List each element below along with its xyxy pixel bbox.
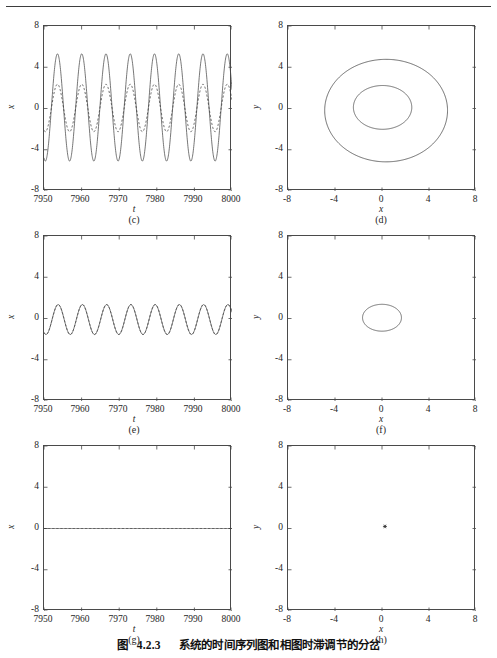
panel-e-curves	[44, 236, 232, 401]
panel-f-ytick-2: 0	[266, 312, 283, 322]
panel-d-xtick-3: 4	[413, 194, 443, 204]
panel-f-xtick-0: -8	[272, 404, 302, 414]
panel-c-caption: (c)	[117, 214, 151, 225]
panel-g-xlabel: t	[127, 624, 141, 634]
panel-d-xtick-0: -8	[272, 194, 302, 204]
panel-f-ytick-0: 8	[266, 230, 283, 240]
panel-g-ytick-0: 8	[22, 440, 39, 450]
figure-caption-text: 系统的时间序列图和相图时滞调节的分岔	[179, 638, 381, 652]
panel-g-plot-frame	[43, 445, 231, 610]
panel-c-ylabel: x	[6, 100, 16, 114]
panel-g-ytick-4: -8	[18, 604, 39, 614]
panel-g-xtick-4: 7990	[173, 614, 213, 624]
panel-d-ytick-0: 8	[266, 20, 283, 30]
panel-g-xtick-0: 7950	[23, 614, 63, 624]
panel-e-ytick-0: 8	[22, 230, 39, 240]
panel-e-xtick-1: 7960	[60, 404, 100, 414]
panel-c-xtick-4: 7990	[173, 194, 213, 204]
panel-h-xtick-4: 8	[460, 614, 490, 624]
panel-c-ytick-2: 0	[22, 102, 39, 112]
panel-c-xtick-1: 7960	[60, 194, 100, 204]
panel-h-ytick-1: 4	[266, 481, 283, 491]
panel-g-xtick-1: 7960	[60, 614, 100, 624]
panel-g-ytick-1: 4	[22, 481, 39, 491]
panel-h-ytick-4: -8	[262, 604, 283, 614]
panel-g-xtick-2: 7970	[98, 614, 138, 624]
panel-h-ylabel: y	[251, 520, 261, 534]
panel-e-ytick-3: -4	[18, 353, 39, 363]
panel-e-ytick-2: 0	[22, 312, 39, 322]
panel-d-curves	[288, 26, 476, 191]
panel-h-plot-frame	[287, 445, 475, 610]
panel-e-ylabel: x	[6, 310, 16, 324]
panel-f: 8 4 0 -4 -8 y -8 -4 0 4 8 x (f)	[249, 228, 497, 428]
panel-e-xtick-5: 8000	[211, 404, 251, 414]
panel-f-ytick-3: -4	[262, 353, 283, 363]
panel-d-ylabel: y	[251, 100, 261, 114]
figure-caption: 图4.2.3系统的时间序列图和相图时滞调节的分岔	[0, 636, 497, 652]
panel-h-xtick-1: -4	[319, 614, 349, 624]
panel-e-xtick-2: 7970	[98, 404, 138, 414]
panel-e-xtick-0: 7950	[23, 404, 63, 414]
panel-d-xtick-4: 8	[460, 194, 490, 204]
panel-f-ytick-1: 4	[266, 271, 283, 281]
figure-caption-number: 4.2.3	[137, 639, 161, 651]
panel-e: 8 4 0 -4 -8 x 7950 7960 7970 7980 7990 8…	[0, 228, 248, 428]
panel-g-ytick-2: 0	[22, 522, 39, 532]
panel-d-ytick-1: 4	[266, 61, 283, 71]
panel-h-xtick-2: 0	[366, 614, 396, 624]
panel-e-xtick-3: 7980	[135, 404, 175, 414]
panel-g: 8 4 0 -4 -8 x 7950 7960 7970 7980 7990 8…	[0, 438, 248, 638]
panel-c-curves	[44, 26, 232, 191]
panel-c-xtick-5: 8000	[211, 194, 251, 204]
panel-f-xtick-1: -4	[319, 404, 349, 414]
panel-c-ytick-4: -8	[18, 184, 39, 194]
top-horizontal-rule	[6, 6, 491, 7]
figure-caption-prefix: 图	[117, 638, 128, 652]
panel-g-curves	[44, 446, 232, 611]
panel-c-ytick-3: -4	[18, 143, 39, 153]
panel-f-xtick-3: 4	[413, 404, 443, 414]
panel-c-xtick-3: 7980	[135, 194, 175, 204]
panel-d-ytick-2: 0	[266, 102, 283, 112]
panel-g-xtick-3: 7980	[135, 614, 175, 624]
panel-h-curves	[288, 446, 476, 611]
panel-f-xtick-4: 8	[460, 404, 490, 414]
panel-c-xtick-2: 7970	[98, 194, 138, 204]
panel-d-plot-frame	[287, 25, 475, 190]
panel-c-xtick-0: 7950	[23, 194, 63, 204]
panel-h-ytick-3: -4	[262, 563, 283, 573]
panel-g-ylabel: x	[6, 520, 16, 534]
panel-c-ytick-0: 8	[22, 20, 39, 30]
panel-h-xtick-3: 4	[413, 614, 443, 624]
panel-f-caption: (f)	[364, 424, 398, 435]
panel-f-xlabel: x	[374, 414, 388, 424]
panel-h-ytick-0: 8	[266, 440, 283, 450]
panel-c-xlabel: t	[127, 204, 141, 214]
panel-d: 8 4 0 -4 -8 y -8 -4 0 4 8 x (d)	[249, 18, 497, 218]
panel-d-xtick-1: -4	[319, 194, 349, 204]
panel-c-plot-frame	[43, 25, 231, 190]
panel-d-ytick-4: -8	[262, 184, 283, 194]
panel-g-xtick-5: 8000	[211, 614, 251, 624]
panel-f-xtick-2: 0	[366, 404, 396, 414]
panel-e-ytick-1: 4	[22, 271, 39, 281]
panel-f-ytick-4: -8	[262, 394, 283, 404]
panel-c-ytick-1: 4	[22, 61, 39, 71]
panel-f-ylabel: y	[251, 310, 261, 324]
panel-g-ytick-3: -4	[18, 563, 39, 573]
panel-e-xlabel: t	[127, 414, 141, 424]
panel-e-plot-frame	[43, 235, 231, 400]
panel-d-xlabel: x	[374, 204, 388, 214]
figure-page: 8 4 0 -4 -8 x 7950 7960 7970 7980 7990 8…	[0, 0, 497, 658]
panel-h-xlabel: x	[374, 624, 388, 634]
panel-f-plot-frame	[287, 235, 475, 400]
panel-e-ytick-4: -8	[18, 394, 39, 404]
panel-c: 8 4 0 -4 -8 x 7950 7960 7970 7980 7990 8…	[0, 18, 248, 218]
panel-d-xtick-2: 0	[366, 194, 396, 204]
panel-e-xtick-4: 7990	[173, 404, 213, 414]
panel-d-ytick-3: -4	[262, 143, 283, 153]
panel-h-ytick-2: 0	[266, 522, 283, 532]
panel-h-xtick-0: -8	[272, 614, 302, 624]
panel-h: 8 4 0 -4 -8 y -8 -4 0 4 8 x (h)	[249, 438, 497, 638]
